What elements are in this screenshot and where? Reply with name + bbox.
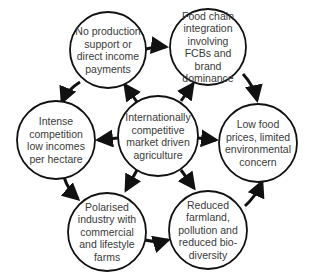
node-low-prices: Low food prices, limited environmental c…	[219, 104, 297, 182]
arrow-center-to-low-prices	[198, 138, 216, 140]
node-label: Food chain integration involving FCBs an…	[174, 10, 242, 85]
node-label: Polarised industry with commercial and l…	[74, 201, 140, 264]
node-polarised: Polarised industry with commercial and l…	[70, 193, 144, 271]
node-label: Low food prices, limited environmental c…	[223, 118, 293, 168]
arrow-center-to-intense	[98, 138, 118, 140]
node-center-hub: Internationally competitive market drive…	[118, 96, 198, 176]
node-intense-competition: Intense competition low incomes per hect…	[17, 101, 95, 179]
arrow-reduced-to-low-prices	[245, 182, 262, 206]
node-food-chain: Food chain integration involving FCBs an…	[170, 9, 246, 85]
node-no-support: No production support or direct income p…	[70, 12, 146, 88]
node-label: Intense competition low incomes per hect…	[21, 115, 91, 165]
hub-label: Internationally competitive market drive…	[122, 111, 194, 161]
node-label: No production support or direct income p…	[74, 25, 142, 75]
arrow-polarised-to-reduced	[145, 240, 168, 242]
arrow-no-support-to-food-chain	[146, 47, 166, 49]
node-reduced-farmland: Reduced farmland, pollution and reduced …	[171, 191, 245, 269]
node-label: Reduced farmland, pollution and reduced …	[175, 199, 241, 262]
